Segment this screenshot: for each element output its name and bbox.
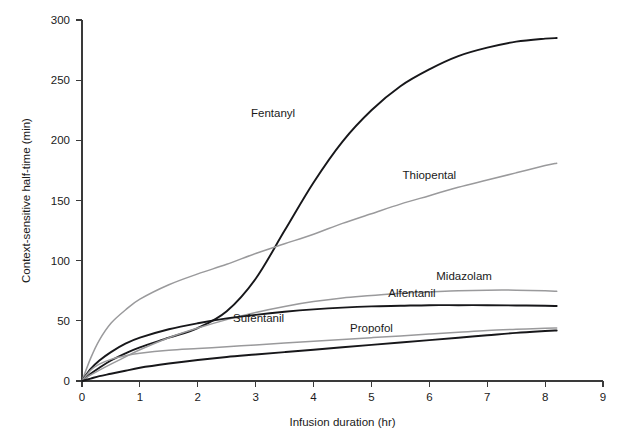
series-label-fentanyl: Fentanyl	[251, 107, 295, 119]
context-sensitive-halftime-chart: 0501001502002503000123456789 FentanylThi…	[0, 0, 621, 445]
x-tick-label-2: 2	[195, 391, 201, 403]
y-tick-label-200: 200	[51, 134, 70, 146]
series-label-propofol: Propofol	[350, 322, 393, 334]
series-label-thiopental: Thiopental	[402, 169, 456, 181]
series-label-midazolam: Midazolam	[436, 270, 492, 282]
x-tick-label-5: 5	[368, 391, 374, 403]
x-tick-label-1: 1	[137, 391, 143, 403]
x-tick-label-9: 9	[600, 391, 606, 403]
series-line-propofol	[82, 330, 557, 381]
x-tick-label-6: 6	[426, 391, 432, 403]
y-axis-title: Context-sensitive half-time (min)	[20, 118, 32, 283]
series-line-fentanyl	[82, 38, 557, 381]
x-tick-label-7: 7	[484, 391, 490, 403]
figure-caption	[0, 433, 621, 445]
series-label-sufentanil: Sufentanil	[233, 312, 284, 324]
y-tick-label-250: 250	[51, 74, 70, 86]
series-labels: FentanylThiopentalMidazolamAlfentanilSuf…	[233, 107, 492, 333]
y-tick-label-100: 100	[51, 255, 70, 267]
y-tick-label-50: 50	[57, 315, 70, 327]
y-tick-label-300: 300	[51, 14, 70, 26]
series-lines	[82, 38, 557, 381]
x-tick-label-3: 3	[252, 391, 258, 403]
y-tick-label-150: 150	[51, 195, 70, 207]
figure-container: 0501001502002503000123456789 FentanylThi…	[0, 0, 621, 445]
series-label-alfentanil: Alfentanil	[388, 287, 435, 299]
y-tick-label-0: 0	[64, 375, 70, 387]
x-tick-label-8: 8	[542, 391, 548, 403]
x-tick-label-0: 0	[79, 391, 85, 403]
axes: 0501001502002503000123456789	[51, 14, 606, 403]
x-axis-title: Infusion duration (hr)	[289, 416, 395, 428]
x-tick-label-4: 4	[310, 391, 317, 403]
